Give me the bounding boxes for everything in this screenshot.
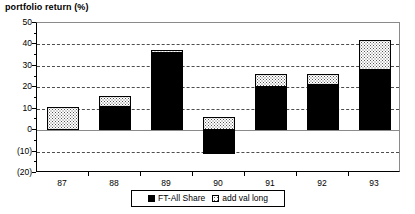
x-tick-mark (296, 172, 297, 176)
bar-segment-add-val-long-88 (99, 96, 130, 107)
legend-item-ft-all-share: FT-All Share (148, 194, 205, 203)
gridline-40 (37, 44, 399, 45)
y-minor-tick-mark (34, 97, 36, 98)
bar-segment-add-val-long-90 (203, 117, 234, 130)
plot-area (36, 22, 400, 172)
y-minor-tick-mark (34, 161, 36, 162)
x-tick-label-93: 93 (360, 179, 388, 188)
legend-swatch-black-icon (148, 195, 155, 202)
bar-segment-ft-all-share-93 (359, 70, 390, 130)
legend-label-add-val-long: add val long (222, 194, 268, 203)
gridline-30 (37, 66, 399, 67)
legend-item-add-val-long: add val long (212, 194, 268, 203)
bar-segment-add-val-long-87 (47, 107, 78, 131)
x-tick-label-91: 91 (256, 179, 284, 188)
x-tick-label-89: 89 (152, 179, 180, 188)
y-tick-label: 20 (2, 82, 32, 90)
x-tick-mark (244, 172, 245, 176)
y-tick-mark (32, 86, 36, 87)
y-tick-label: 0 (2, 125, 32, 133)
x-tick-label-88: 88 (100, 179, 128, 188)
y-minor-tick-mark (34, 33, 36, 34)
y-tick-mark (32, 151, 36, 152)
y-tick-mark (32, 172, 36, 173)
bar-segment-add-val-long-91 (255, 74, 286, 87)
y-tick-mark (32, 65, 36, 66)
y-tick-label: (10) (2, 147, 32, 155)
y-tick-mark (32, 108, 36, 109)
bar-segment-ft-all-share-89 (151, 53, 182, 130)
x-tick-mark (192, 172, 193, 176)
y-tick-mark (32, 43, 36, 44)
legend-label-ft-all-share: FT-All Share (158, 194, 205, 203)
chart-container: portfolio return (%) 50403020100(10)(20)… (0, 0, 415, 214)
chart-title: portfolio return (%) (5, 2, 89, 12)
bar-segment-add-val-long-93 (359, 40, 390, 70)
x-tick-label-90: 90 (204, 179, 232, 188)
y-tick-label: 50 (2, 18, 32, 26)
x-tick-mark (88, 172, 89, 176)
bar-segment-ft-all-share-90 (203, 130, 234, 154)
y-minor-tick-mark (34, 140, 36, 141)
x-tick-label-87: 87 (48, 179, 76, 188)
chart-legend: FT-All Share add val long (131, 190, 285, 207)
y-tick-label: 30 (2, 61, 32, 69)
gridline-20 (37, 87, 399, 88)
y-tick-label: 40 (2, 39, 32, 47)
y-minor-tick-mark (34, 54, 36, 55)
bar-segment-ft-all-share-88 (99, 107, 130, 131)
gridline-10 (37, 109, 399, 110)
x-tick-label-92: 92 (308, 179, 336, 188)
x-tick-mark (348, 172, 349, 176)
y-tick-label: (20) (2, 168, 32, 176)
bar-segment-ft-all-share-92 (307, 85, 338, 130)
bar-segment-add-val-long-89 (151, 50, 182, 53)
y-minor-tick-mark (34, 118, 36, 119)
y-tick-label: 10 (2, 104, 32, 112)
y-tick-mark (32, 22, 36, 23)
bar-segment-ft-all-share-91 (255, 87, 286, 130)
legend-swatch-dotted-icon (212, 195, 219, 202)
x-tick-mark (140, 172, 141, 176)
y-minor-tick-mark (34, 76, 36, 77)
bar-segment-add-val-long-92 (307, 74, 338, 85)
y-tick-mark (32, 129, 36, 130)
